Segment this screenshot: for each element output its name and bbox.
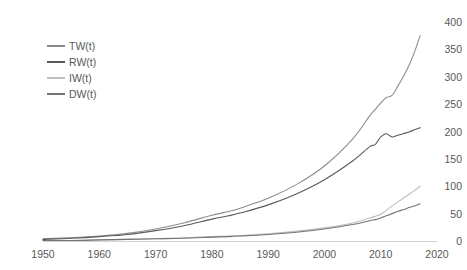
legend-label: DW(t) [69, 89, 96, 100]
legend-label: RW(t) [69, 57, 96, 68]
series-line-dwt [43, 204, 420, 241]
legend: TW(t)RW(t)IW(t)DW(t) [47, 38, 96, 102]
x-tick-label: 1990 [238, 249, 298, 260]
legend-label: TW(t) [69, 41, 95, 52]
series-lines [43, 22, 437, 241]
legend-item[interactable]: RW(t) [47, 54, 96, 70]
x-tick-label: 2000 [294, 249, 354, 260]
legend-item[interactable]: TW(t) [47, 38, 96, 54]
legend-item[interactable]: DW(t) [47, 86, 96, 102]
plot-area [43, 22, 437, 241]
legend-swatch-icon [47, 45, 65, 46]
x-tick-label: 1970 [126, 249, 186, 260]
x-tick-label: 1980 [182, 249, 242, 260]
x-tick-label: 2010 [351, 249, 411, 260]
legend-label: IW(t) [69, 73, 92, 84]
legend-swatch-icon [47, 77, 65, 78]
legend-swatch-icon [47, 61, 65, 62]
zero-baseline [43, 241, 437, 242]
x-tick-label: 2020 [407, 249, 467, 260]
x-tick-label: 1960 [69, 249, 129, 260]
series-line-twt [43, 36, 420, 239]
x-tick-label: 1950 [13, 249, 73, 260]
series-line-iwt [43, 186, 420, 240]
legend-swatch-icon [47, 93, 65, 94]
legend-item[interactable]: IW(t) [47, 70, 96, 86]
